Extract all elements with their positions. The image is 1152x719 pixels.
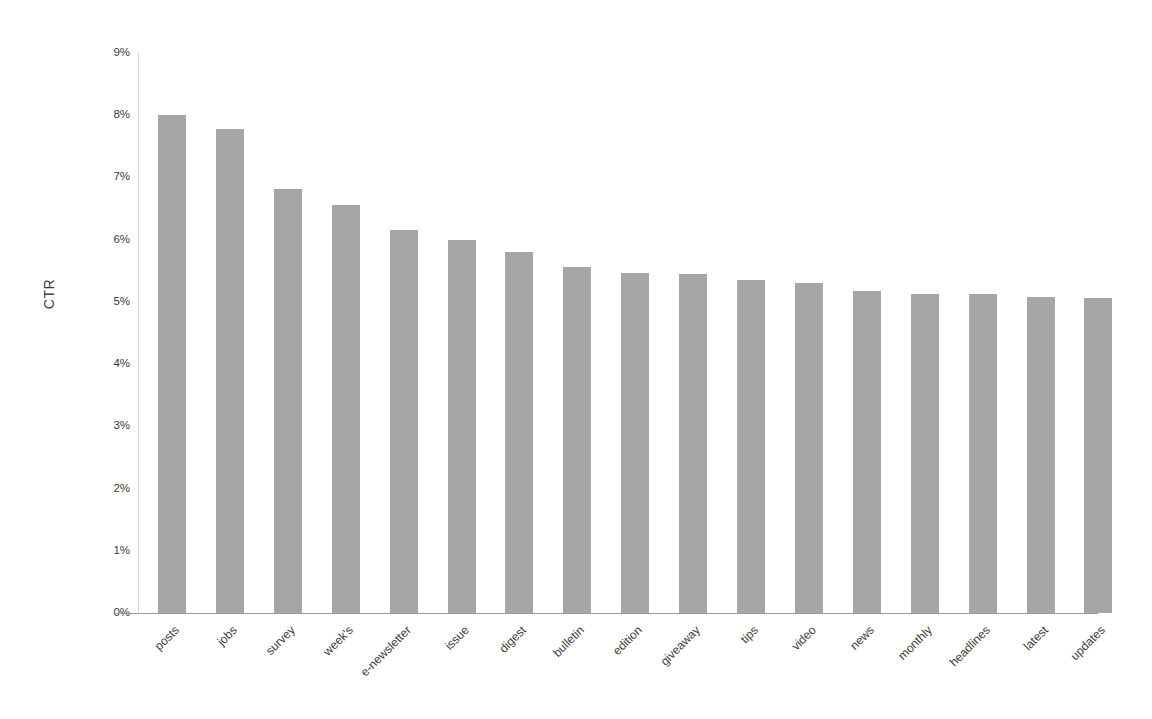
x-axis-tick-label: week's	[320, 623, 356, 659]
y-axis-tick: 9%	[90, 47, 130, 59]
y-axis-tick-labels: 9%8%7%6%5%4%3%2%1%0%	[82, 53, 130, 613]
bar	[448, 240, 476, 613]
x-axis-tick-label: giveaway	[658, 623, 703, 668]
x-axis-tick-label: headlines	[946, 623, 992, 669]
bar	[737, 280, 765, 614]
x-axis-tick-label: digest	[497, 623, 530, 656]
x-axis-tick-label: video	[789, 623, 819, 653]
y-axis-tick: 5%	[90, 296, 130, 308]
y-axis-tick: 4%	[90, 358, 130, 370]
bar	[274, 189, 302, 613]
x-axis-tick-label: survey	[263, 623, 298, 658]
x-axis-tick-label: e-newsletter	[357, 623, 413, 679]
bar	[621, 273, 649, 613]
plot-area	[138, 53, 1098, 613]
bar	[505, 252, 533, 614]
bar	[1027, 297, 1055, 613]
y-axis-tick: 8%	[90, 109, 130, 121]
y-axis-tick: 7%	[90, 172, 130, 184]
bar	[158, 115, 186, 613]
bar	[853, 291, 881, 613]
bar	[969, 294, 997, 613]
y-axis-tick: 1%	[90, 545, 130, 557]
x-axis-tick-label: jobs	[214, 623, 239, 648]
bar	[795, 283, 823, 613]
x-axis-tick-label: issue	[442, 623, 472, 653]
bar	[679, 274, 707, 613]
x-axis-tick-label: edition	[610, 623, 645, 658]
y-axis-tick: 6%	[90, 234, 130, 246]
y-axis-title: CTR	[41, 259, 57, 329]
x-axis-tick-label: bulletin	[550, 623, 587, 660]
bar	[332, 205, 360, 613]
y-axis-tick: 3%	[90, 421, 130, 433]
x-axis-tick-label: posts	[152, 623, 182, 653]
bar	[390, 230, 418, 613]
bar	[911, 294, 939, 613]
x-axis-tick-label: latest	[1020, 623, 1050, 653]
x-axis-tick-label: tips	[738, 623, 761, 646]
x-axis-tick-label: monthly	[895, 623, 935, 663]
bar	[216, 129, 244, 613]
bar-chart: CTR 9%8%7%6%5%4%3%2%1%0% postsjobssurvey…	[0, 0, 1152, 719]
x-axis-tick-label: news	[847, 623, 877, 653]
bar	[1084, 298, 1112, 613]
x-axis-tick-label: updates	[1068, 623, 1108, 663]
bar	[563, 267, 591, 613]
y-axis-tick: 2%	[90, 483, 130, 495]
x-axis-tick-labels: postsjobssurveyweek'se-newsletterissuedi…	[0, 613, 1152, 719]
